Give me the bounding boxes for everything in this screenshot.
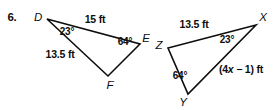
triangle-XYZ-path: [168, 25, 256, 94]
expression-prefix: (4: [219, 63, 228, 75]
problem-number: 6.: [7, 12, 16, 24]
vertex-label-X: X: [259, 12, 266, 24]
expression-suffix: − 1) ft: [233, 63, 263, 75]
vertex-label-D: D: [34, 12, 42, 24]
side-label-DE: 15 ft: [85, 14, 106, 25]
side-label-ZX: 13.5 ft: [180, 19, 209, 30]
angle-label-X: 23°: [220, 35, 235, 45]
angle-label-E: 64°: [118, 37, 133, 47]
vertex-label-Y: Y: [179, 97, 186, 109]
angle-label-Y: 64°: [173, 71, 188, 81]
vertex-label-F: F: [107, 80, 114, 92]
vertex-label-E: E: [142, 33, 149, 45]
geometry-figure: 6. D E F 15 ft 13.5 ft 23° 64° X Y Z 13.…: [0, 0, 278, 110]
side-label-XY-expression: (4x − 1) ft: [219, 64, 263, 75]
side-label-DF: 13.5 ft: [46, 49, 75, 60]
triangle-XYZ-outline: [168, 25, 256, 94]
angle-label-D: 23°: [60, 27, 75, 37]
vertex-label-Z: Z: [156, 40, 163, 52]
